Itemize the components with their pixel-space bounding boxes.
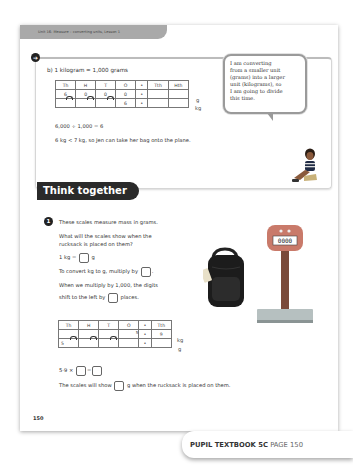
question-number-badge: 1 [44,217,53,226]
textbook-page-tab: PUPIL TEXTBOOK 5C PAGE 150 [182,431,353,458]
cell [148,99,168,108]
character-illustration [290,148,320,184]
rucksack-illustration [203,247,248,309]
multiply-prefix: shift to the left by [59,294,105,300]
bubble-line: I am going to divide [230,88,300,95]
question-intro: These scales measure mass in grams. [59,219,158,225]
cell: • [139,330,151,339]
page-label: PAGE 150 [270,441,303,449]
bubble-line: I am converting [230,60,300,67]
cell [148,90,168,99]
header-th: Th [59,321,79,330]
speech-bubble: I am converting from a smaller unit (gra… [223,54,307,114]
table-row: 6 0 0 0 • [56,90,189,99]
header-point: • [139,321,151,330]
cell [119,339,139,348]
equation: 6,000 ÷ 1,000 = 6 [55,123,103,129]
shift-arrow-icon [90,336,97,340]
calc-prefix: 5·9 × [59,367,73,373]
unit-g-label: g [178,346,181,352]
header-tth: Tth [148,81,168,90]
question-line-1: What will the scales show when the [59,233,152,239]
shift-arrow-icon [87,96,94,100]
book-label: PUPIL TEXTBOOK 5C [190,441,268,449]
cell: • [136,90,148,99]
answer-box-multiplier[interactable] [141,267,151,277]
header-h: H [76,81,96,90]
cell [168,90,188,99]
multiply-suffix: places. [121,294,139,300]
answer-box-multiplier-2[interactable] [76,366,86,376]
bubble-line: from a smaller unit [230,67,300,74]
header-point: • [136,81,148,90]
answer-suffix: g when the rucksack is placed on them. [127,382,230,388]
equals-sign: = [87,367,91,373]
textbook-page: Unit 16: Measure – converting units, Les… [20,25,338,431]
bubble-line: unit (kilograms), so [230,81,300,88]
question-line-2: rucksack is placed on them? [59,241,133,247]
conclusion: 6 kg < 7 kg, so Jen can take her bag ont… [55,137,191,143]
unit-label: Unit 16: Measure – converting units, Les… [38,30,120,34]
header-t: T [96,81,116,90]
kg-suffix: g [92,254,95,260]
kg-prefix: 1 kg = [59,254,76,260]
cell: 6 [116,99,136,108]
multiply-line-1: When we multiply by 1,000, the digits [59,282,158,288]
answer-box-places[interactable] [108,293,118,303]
bubble-line: this time. [230,95,300,102]
scale-display: 0000 [278,237,293,244]
answer-box-kg-grams[interactable] [79,253,89,263]
arrow-icon: ➔ [31,53,40,62]
bubble-tail [267,113,273,121]
answer-box-scale-reading[interactable] [114,381,124,391]
header-h: H [79,321,99,330]
convert-prefix: To convert kg to g, multiply by [59,268,138,274]
part-b-title: b) 1 kilogram = 1,000 grams [47,67,128,73]
cell [168,99,188,108]
cell: • [139,339,151,348]
bubble-line: (grams) into a larger [230,74,300,81]
answer-prefix: The scales will show [59,382,112,388]
shift-arrow-icon [70,336,77,340]
scales-illustration: 0000 [252,225,318,330]
unit-kg-label: kg [177,337,183,343]
unit-header-tab: Unit 16: Measure – converting units, Les… [20,25,167,39]
shift-arrow-icon [66,96,73,100]
cell: • [136,99,148,108]
convert-suffix: . [152,268,154,274]
cell: 0 [116,90,136,99]
place-value-table-b: Th H T O • Tth Hth 6 0 0 0 • 6 • [55,80,189,108]
place-value-table-1: Th H T O • Tth 5 • 9 5 • [58,320,172,348]
shift-arrow-icon [107,96,114,100]
unit-g-label: g [196,97,199,103]
header-t: T [99,321,119,330]
header-th: Th [56,81,76,90]
header-o: O [116,81,136,90]
header-hth: Hth [168,81,188,90]
cell [151,339,171,348]
think-together-heading: Think together [37,182,139,200]
table-row: 6 • [56,99,189,108]
answer-box-result[interactable] [92,366,102,376]
page-number: 150 [33,415,43,421]
cell: 5 [119,330,139,339]
cell: 9 [151,330,171,339]
header-tth: Tth [151,321,171,330]
shift-arrow-icon [110,336,117,340]
header-o: O [119,321,139,330]
unit-kg-label: kg [195,105,201,111]
